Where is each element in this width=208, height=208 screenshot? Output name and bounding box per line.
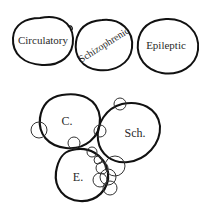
label-c: C. [61, 114, 72, 128]
label-sch: Sch. [125, 126, 146, 140]
label-circulatory: Circulatory [18, 34, 69, 46]
diagram-canvas: Circulatory Schizophrenic Epileptic C. [0, 0, 208, 208]
label-epileptic: Epileptic [146, 39, 186, 51]
label-e: E. [73, 170, 83, 184]
label-schizophrenic: Schizophrenic [77, 24, 132, 64]
top-row: Circulatory Schizophrenic Epileptic [13, 17, 198, 74]
bottom-cluster: C. Sch. E. [31, 94, 160, 201]
